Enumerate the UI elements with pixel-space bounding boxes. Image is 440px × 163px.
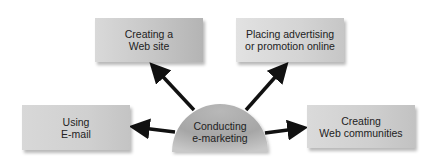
- node-creating-web-site: Creating a Web site: [95, 18, 203, 62]
- hub-label: Conducting e-marketing: [172, 120, 268, 144]
- node-label: Creating a Web site: [125, 28, 173, 52]
- node-using-email: Using E-mail: [22, 105, 130, 150]
- node-creating-web-communities: Creating Web communities: [307, 105, 415, 148]
- arrow-to-advertising: [246, 66, 285, 110]
- arrow-to-email: [134, 127, 175, 132]
- node-label: Creating Web communities: [319, 115, 402, 139]
- node-placing-advertising: Placing advertising or promotion online: [236, 18, 344, 62]
- arrow-to-communities: [265, 128, 303, 133]
- arrow-to-web-site: [153, 66, 194, 110]
- e-marketing-diagram: Conducting e-marketing Creating a Web si…: [0, 0, 440, 163]
- node-label: Using E-mail: [61, 116, 91, 140]
- node-label: Placing advertising or promotion online: [245, 28, 335, 52]
